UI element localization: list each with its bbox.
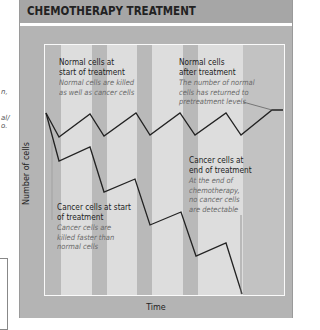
annotation-text: The number of normal	[179, 78, 255, 88]
annotation-title: after treatment	[179, 68, 256, 78]
annotation-normal-start: Normal cells at start of treatment Norma…	[59, 58, 143, 97]
annotation-text: killed faster than	[57, 233, 129, 243]
annotation-normal-after: Normal cells after treatment The number …	[179, 58, 263, 107]
annotation-title: Normal cells at	[59, 58, 136, 68]
annotation-title: start of treatment	[59, 68, 136, 78]
annotation-title: Normal cells	[179, 58, 256, 68]
annotation-cancer-end: Cancer cells at end of treatment At the …	[189, 156, 257, 214]
annotation-text: pretreatment levels	[179, 97, 255, 107]
annotation-title: Cancer cells at	[189, 156, 252, 166]
annotation-title: end of treatment	[189, 166, 252, 176]
annotation-cancer-start: Cancer cells at start of treatment Cance…	[57, 203, 137, 252]
annotation-text: no cancer cells	[189, 195, 250, 205]
annotation-text: chemotherapy,	[189, 186, 250, 196]
annotation-text: normal cells	[57, 242, 129, 252]
annotation-title: Cancer cells at start	[57, 203, 131, 213]
annotation-title: of treatment	[57, 213, 131, 223]
annotation-text: are detectable	[189, 205, 250, 215]
annotation-text: At the end of	[189, 176, 250, 186]
annotation-text: as well as cancer cells	[59, 88, 134, 98]
annotation-text: cells has returned to	[179, 88, 255, 98]
annotation-text: Cancer cells are	[57, 223, 129, 233]
normal-cells-line	[46, 110, 283, 137]
annotation-text: Normal cells are killed	[59, 78, 134, 88]
